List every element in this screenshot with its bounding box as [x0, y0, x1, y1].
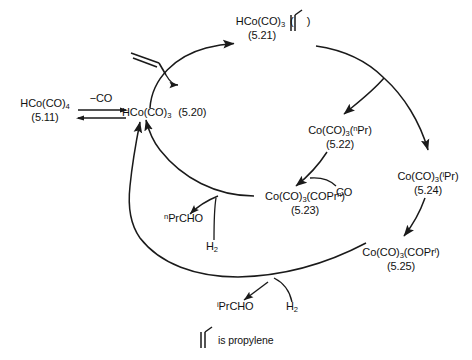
product-npr-cho: nPrCHO: [164, 212, 203, 226]
cycle-arc-top-left: [150, 44, 234, 109]
arrow-npr-to-acyl-n: [296, 152, 327, 186]
propylene-entering-structure: [131, 53, 178, 85]
species-co-co3-ipr-number: (5.24): [398, 184, 459, 198]
species-co-co3-coprn: Co(CO)3(COPrn) (5.23): [265, 190, 345, 218]
legend-text: is propylene: [218, 334, 273, 347]
reagent-co: CO: [336, 186, 352, 200]
cycle-arc-top-right: [316, 46, 384, 78]
species-co-co3-copri: Co(CO)3(COPri) (5.25): [362, 246, 439, 274]
reaction-scheme-canvas: HCo(CO)4 (5.11) −CO HCo(CO)3(5.20) HCo(C…: [0, 0, 472, 360]
branch-arrow-to-npr: [344, 78, 384, 114]
arrow-ipr-to-acyl-i: [404, 198, 425, 236]
species-hco-co3-propylene-formula: HCo(CO)3(): [236, 14, 310, 29]
reagent-h2-upper: H2: [206, 240, 218, 254]
cycle-arc-inner-return: [146, 120, 254, 196]
species-co-co3-ipr: Co(CO)3(iPr) (5.24): [398, 170, 459, 198]
species-hco-co4-number: (5.11): [20, 111, 69, 125]
species-hco-co4: HCo(CO)4 (5.11): [20, 97, 69, 125]
species-hco-co3-propylene-number: (5.21): [236, 29, 288, 43]
arrow-ipr-cho-elimination: [244, 282, 268, 300]
species-hco-co4-formula: HCo(CO)4: [20, 97, 69, 111]
species-hco-co3-propylene: HCo(CO)3() (5.21): [236, 14, 310, 43]
species-co-co3-npr-formula: Co(CO)3(nPr): [308, 124, 372, 138]
h2-feed-curve-i: [274, 278, 292, 302]
species-co-co3-ipr-formula: Co(CO)3(iPr): [398, 170, 459, 184]
species-co-co3-npr-number: (5.22): [308, 138, 372, 152]
branch-arrow-to-ipr: [384, 78, 428, 150]
reagent-minus-co: −CO: [90, 92, 113, 106]
propylene-glyph-legend: [201, 327, 212, 348]
h2-feed-curve-n: [214, 198, 216, 240]
reagent-h2-lower: H2: [286, 300, 298, 314]
equilibrium-arrows: [76, 108, 128, 121]
propylene-glyph-placeholder: [294, 14, 307, 28]
species-co-co3-copri-number: (5.25): [362, 260, 439, 274]
species-hco-co3-left: HCo(CO)3(5.20): [122, 106, 206, 120]
product-ipr-cho: iPrCHO: [217, 300, 254, 314]
species-hco-co3-left-formula: HCo(CO)3: [122, 106, 171, 118]
species-co-co3-coprn-formula: Co(CO)3(COPrn): [265, 190, 345, 204]
species-co-co3-npr: Co(CO)3(nPr) (5.22): [308, 124, 372, 152]
species-co-co3-copri-formula: Co(CO)3(COPri): [362, 246, 439, 260]
co-feed-curve-n: [310, 178, 336, 186]
species-hco-co3-left-number: (5.20): [178, 106, 206, 118]
species-co-co3-coprn-number: (5.23): [265, 204, 345, 218]
